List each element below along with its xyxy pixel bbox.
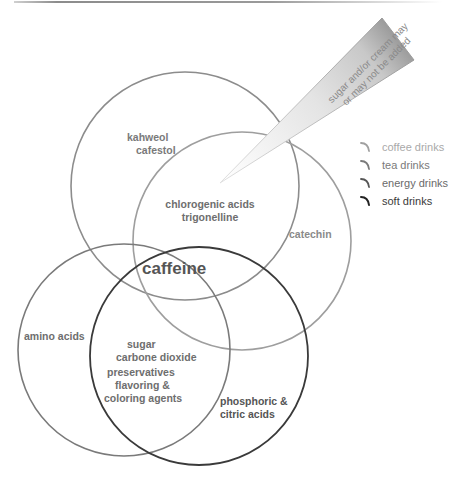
label-sugar: sugar bbox=[127, 338, 156, 351]
label-phosphoric: phosphoric & bbox=[220, 395, 288, 408]
legend-item-coffee-drinks: coffee drinks bbox=[358, 138, 448, 156]
venn-diagram: sugar and/or cream may or may not be add… bbox=[0, 0, 466, 480]
legend-item-soft-drinks: soft drinks bbox=[358, 192, 448, 210]
legend: coffee drinks tea drinks energy drinks s… bbox=[358, 138, 448, 210]
legend-label: tea drinks bbox=[382, 158, 430, 172]
arc-icon bbox=[358, 158, 374, 172]
arc-icon bbox=[358, 140, 374, 154]
legend-item-energy-drinks: energy drinks bbox=[358, 174, 448, 192]
label-catechin: catechin bbox=[289, 228, 332, 241]
label-trigonelline: trigonelline bbox=[150, 211, 270, 224]
top-rule bbox=[14, 1, 442, 3]
label-preservatives: preservatives bbox=[107, 366, 175, 379]
legend-label: soft drinks bbox=[382, 194, 432, 208]
label-citric-acids: citric acids bbox=[220, 408, 275, 421]
arc-icon bbox=[358, 194, 374, 208]
label-amino-acids: amino acids bbox=[24, 330, 85, 343]
label-caffeine: caffeine bbox=[142, 259, 206, 279]
label-chlorogenic-acids: chlorogenic acids bbox=[150, 198, 270, 211]
label-coloring-agents: coloring agents bbox=[104, 392, 182, 405]
legend-label: coffee drinks bbox=[382, 140, 444, 154]
legend-item-tea-drinks: tea drinks bbox=[358, 156, 448, 174]
arc-icon bbox=[358, 176, 374, 190]
legend-label: energy drinks bbox=[382, 176, 448, 190]
label-kahweol: kahweol bbox=[127, 131, 168, 144]
label-flavoring: flavoring & bbox=[115, 379, 170, 392]
label-carbone-dioxide: carbone dioxide bbox=[116, 351, 197, 364]
label-cafestol: cafestol bbox=[136, 144, 176, 157]
